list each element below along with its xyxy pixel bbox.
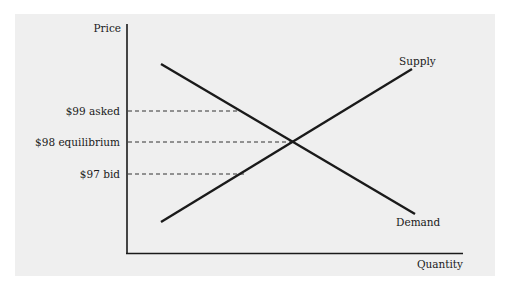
y-axis-label: Price (93, 22, 121, 34)
supply-curve (161, 69, 412, 222)
level-label-bid: $97 bid (80, 168, 120, 180)
level-label-asked: $99 asked (66, 105, 121, 117)
demand-curve (161, 64, 415, 214)
supply-demand-chart: Price Quantity $99 asked $98 equilibrium… (0, 0, 505, 289)
demand-label: Demand (396, 216, 441, 228)
x-axis-label: Quantity (417, 258, 463, 270)
level-label-equilibrium: $98 equilibrium (35, 136, 120, 148)
supply-label: Supply (399, 55, 436, 67)
